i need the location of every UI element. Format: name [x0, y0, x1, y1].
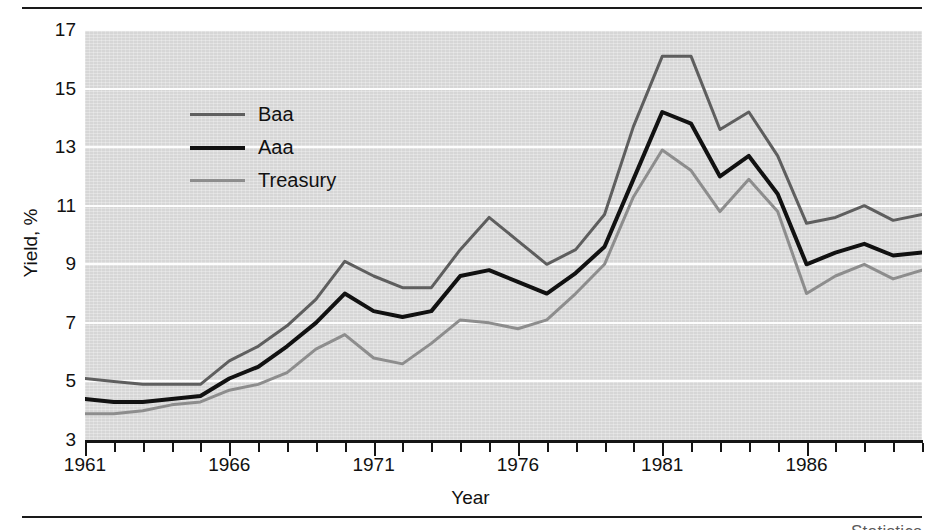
x-tick-label-1971: 1971 [339, 455, 409, 474]
x-tick-1989 [893, 443, 895, 452]
x-axis [85, 440, 923, 443]
legend-swatch-treasury [190, 179, 245, 182]
x-tick-1988 [864, 443, 866, 452]
x-tick-1969 [316, 443, 318, 452]
legend-swatch-aaa [190, 146, 245, 150]
x-tick-1990 [922, 443, 924, 452]
x-tick-label-1976: 1976 [483, 455, 553, 474]
legend-label-treasury: Treasury [258, 169, 336, 192]
y-tick-label-15: 15 [55, 79, 76, 98]
legend-swatch-baa [190, 113, 245, 116]
x-tick-1987 [835, 443, 837, 452]
y-tick-label-5: 5 [65, 371, 76, 390]
x-tick-1965 [200, 443, 202, 452]
x-tick-1974 [460, 443, 462, 452]
figure-top-rule [22, 7, 922, 9]
x-tick-label-1966: 1966 [194, 455, 264, 474]
x-tick-1983 [720, 443, 722, 452]
y-tick-label-7: 7 [65, 313, 76, 332]
figure-bottom-rule [22, 516, 922, 518]
caption-sliver: Statistics [22, 522, 922, 530]
y-tick-label-3: 3 [65, 430, 76, 449]
x-tick-label-1961: 1961 [50, 455, 120, 474]
x-tick-1962 [114, 443, 116, 452]
x-tick-1978 [576, 443, 578, 452]
x-tick-label-1981: 1981 [627, 455, 697, 474]
x-tick-1977 [547, 443, 549, 452]
x-tick-1982 [691, 443, 693, 452]
y-axis-title: Yield, % [20, 188, 42, 298]
x-tick-1963 [143, 443, 145, 452]
legend-item-treasury: Treasury [190, 164, 380, 197]
chart-legend: BaaAaaTreasury [190, 98, 380, 197]
y-tick-label-13: 13 [55, 137, 76, 156]
x-axis-title: Year [0, 487, 941, 509]
legend-label-aaa: Aaa [258, 136, 294, 159]
x-tick-1972 [402, 443, 404, 452]
legend-label-baa: Baa [258, 103, 294, 126]
x-tick-1964 [172, 443, 174, 452]
legend-item-baa: Baa [190, 98, 380, 131]
x-tick-1980 [633, 443, 635, 452]
bond-yield-figure: 357911131517 196119661971197619811986 Yi… [0, 0, 941, 530]
x-tick-label-1986: 1986 [772, 455, 842, 474]
x-tick-1984 [749, 443, 751, 452]
x-tick-1970 [345, 443, 347, 452]
x-tick-1979 [605, 443, 607, 452]
legend-item-aaa: Aaa [190, 131, 380, 164]
x-tick-1975 [489, 443, 491, 452]
series-lines [85, 30, 922, 440]
y-tick-label-11: 11 [56, 196, 76, 215]
y-tick-label-17: 17 [55, 20, 76, 39]
x-tick-1973 [431, 443, 433, 452]
x-tick-1968 [287, 443, 289, 452]
y-tick-label-9: 9 [65, 254, 76, 273]
plot-area [85, 30, 922, 440]
x-tick-1967 [258, 443, 260, 452]
x-tick-1985 [778, 443, 780, 452]
